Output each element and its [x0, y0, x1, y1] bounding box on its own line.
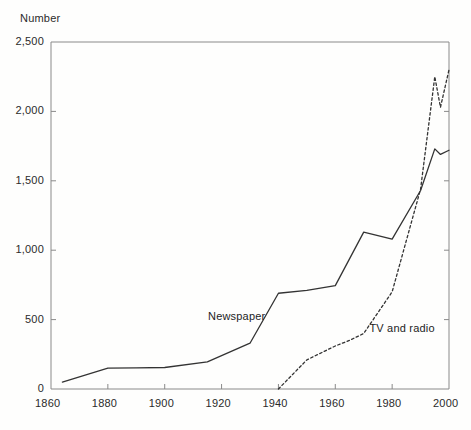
y-tick-label: 2,000: [4, 104, 44, 116]
series-label-1: TV and radio: [369, 322, 434, 334]
chart-container: Number 05001,0001,5002,0002,500 18601880…: [0, 0, 471, 430]
x-tick-label: 1860: [35, 397, 60, 409]
x-tick-label: 1980: [376, 397, 401, 409]
y-tick-label: 0: [4, 382, 44, 394]
y-axis-ticks: [51, 111, 449, 319]
x-tick-label: 2000: [433, 397, 458, 409]
x-tick-label: 1960: [319, 397, 344, 409]
axis-lines: [51, 42, 449, 389]
series-label-0: Newspaper: [208, 310, 265, 322]
x-axis-ticks: [108, 384, 392, 389]
x-tick-label: 1880: [92, 397, 117, 409]
x-tick-label: 1900: [149, 397, 174, 409]
plot-area: [0, 0, 471, 430]
y-tick-label: 2,500: [4, 35, 44, 47]
x-tick-label: 1920: [206, 397, 231, 409]
series-paths: [62, 70, 449, 389]
y-tick-label: 500: [4, 313, 44, 325]
y-tick-label: 1,000: [4, 243, 44, 255]
x-tick-label: 1940: [262, 397, 287, 409]
series-line-0: [62, 149, 449, 382]
y-tick-label: 1,500: [4, 174, 44, 186]
series-line-1: [278, 70, 449, 389]
